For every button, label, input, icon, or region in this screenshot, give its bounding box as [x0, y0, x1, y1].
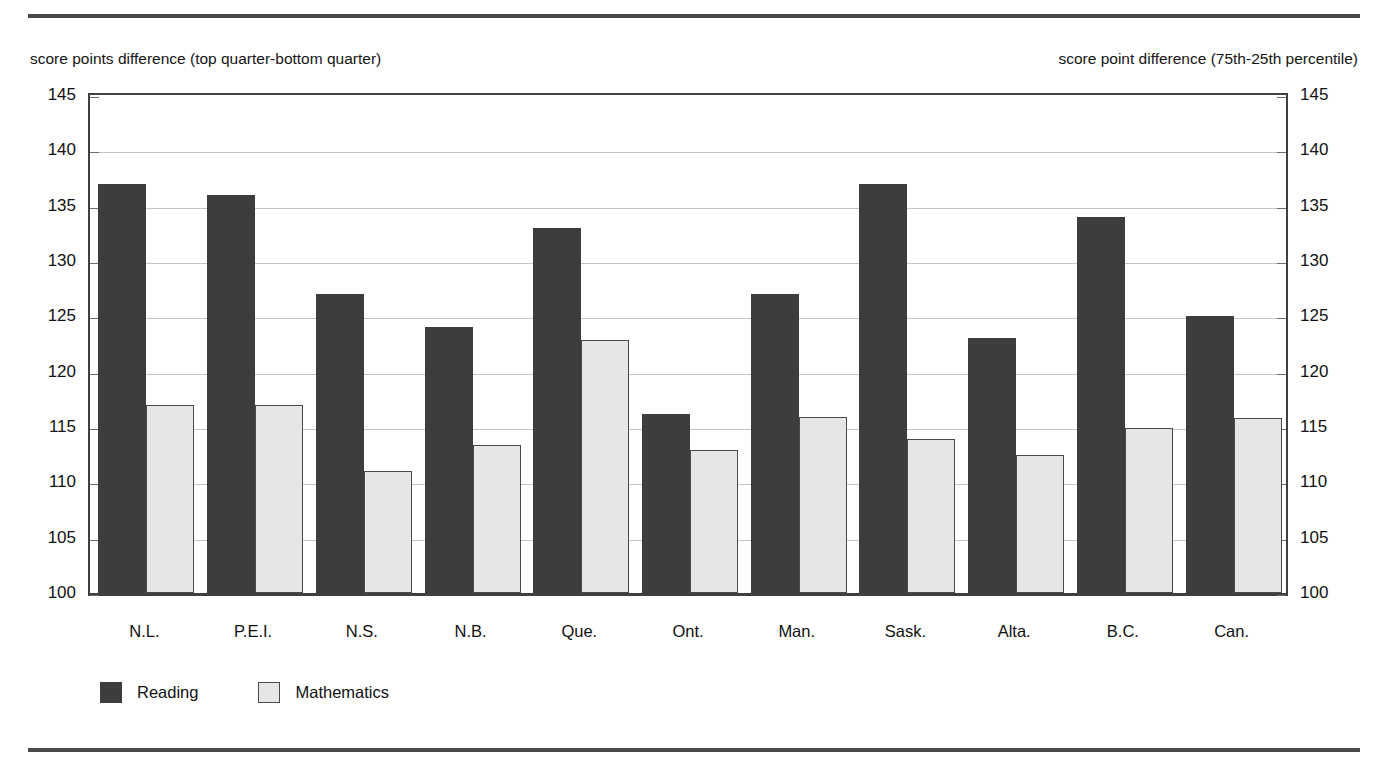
- bar-mathematics-nb: [473, 445, 521, 593]
- y-tick-label-left: 120: [16, 363, 76, 380]
- bar-reading-ns: [316, 294, 364, 593]
- x-tick-label: P.E.I.: [199, 622, 308, 641]
- bar-mathematics-can: [1234, 418, 1282, 593]
- bottom-rule: [28, 748, 1360, 752]
- legend-swatch-icon: [100, 682, 122, 703]
- bar-mathematics-que: [581, 340, 629, 593]
- legend-swatch-icon: [258, 682, 280, 703]
- y-tick-label-left: 110: [16, 473, 76, 490]
- bar-reading-man: [751, 294, 799, 593]
- tick-mark-left: [90, 595, 99, 596]
- y-tick-label-right: 120: [1300, 363, 1360, 380]
- top-rule: [28, 14, 1360, 18]
- y-tick-label-right: 100: [1300, 584, 1360, 601]
- chart-legend: ReadingMathematics: [100, 682, 389, 703]
- left-axis-caption: score points difference (top quarter-bot…: [30, 50, 381, 68]
- clipped-title: [0, 0, 1388, 8]
- bar-mathematics-ns: [364, 471, 412, 593]
- bar-reading-nl: [98, 184, 146, 593]
- y-tick-label-right: 145: [1300, 86, 1360, 103]
- x-tick-label: N.L.: [90, 622, 199, 641]
- legend-label: Reading: [137, 683, 198, 702]
- y-tick-label-right: 105: [1300, 529, 1360, 546]
- figure-page: score points difference (top quarter-bot…: [0, 0, 1388, 774]
- plot-area: [88, 93, 1288, 596]
- bar-reading-nb: [425, 327, 473, 593]
- y-tick-label-right: 140: [1300, 141, 1360, 158]
- y-tick-label-left: 135: [16, 197, 76, 214]
- bar-mathematics-pei: [255, 405, 303, 593]
- y-tick-label-right: 110: [1300, 473, 1360, 490]
- legend-item: Reading: [100, 682, 198, 703]
- y-tick-label-left: 125: [16, 307, 76, 324]
- y-tick-label-left: 145: [16, 86, 76, 103]
- y-tick-label-left: 105: [16, 529, 76, 546]
- bar-reading-ont: [642, 414, 690, 593]
- x-tick-label: Man.: [742, 622, 851, 641]
- x-tick-label: B.C.: [1069, 622, 1178, 641]
- x-tick-label: Sask.: [851, 622, 960, 641]
- y-tick-label-left: 100: [16, 584, 76, 601]
- bar-mathematics-ont: [690, 450, 738, 593]
- right-axis-caption: score point difference (75th-25th percen…: [1058, 50, 1358, 68]
- y-tick-label-left: 130: [16, 252, 76, 269]
- x-tick-label: Can.: [1177, 622, 1286, 641]
- bar-mathematics-nl: [146, 405, 194, 593]
- y-tick-label-left: 140: [16, 141, 76, 158]
- bar-reading-bc: [1077, 217, 1125, 593]
- y-tick-label-right: 125: [1300, 307, 1360, 324]
- x-tick-label: N.B.: [416, 622, 525, 641]
- y-tick-label-right: 115: [1300, 418, 1360, 435]
- y-tick-label-left: 115: [16, 418, 76, 435]
- y-tick-label-right: 130: [1300, 252, 1360, 269]
- tick-mark-right: [1277, 595, 1286, 596]
- bar-reading-sask: [859, 184, 907, 593]
- x-tick-label: Alta.: [960, 622, 1069, 641]
- legend-label: Mathematics: [295, 683, 389, 702]
- x-tick-label: Ont.: [634, 622, 743, 641]
- bar-reading-can: [1186, 316, 1234, 593]
- legend-item: Mathematics: [258, 682, 389, 703]
- bar-reading-que: [533, 228, 581, 593]
- y-tick-label-right: 135: [1300, 197, 1360, 214]
- bar-reading-alta: [968, 338, 1016, 593]
- bar-mathematics-bc: [1125, 428, 1173, 593]
- bar-mathematics-sask: [907, 439, 955, 593]
- bar-reading-pei: [207, 195, 255, 593]
- x-tick-label: Que.: [525, 622, 634, 641]
- x-tick-label: N.S.: [307, 622, 416, 641]
- bar-mathematics-man: [799, 417, 847, 593]
- bars-layer: [90, 95, 1286, 593]
- bar-mathematics-alta: [1016, 455, 1064, 593]
